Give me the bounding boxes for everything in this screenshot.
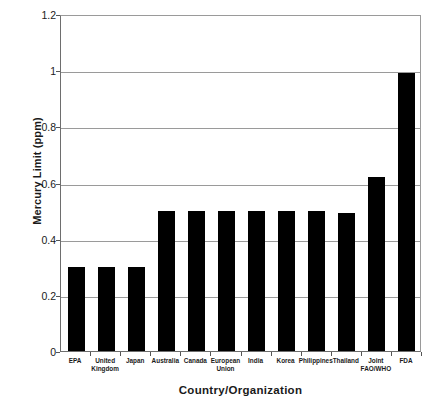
- y-tick-label: 0.8: [16, 122, 56, 132]
- x-tick-mark: [271, 352, 272, 356]
- x-tick-mark: [90, 352, 91, 356]
- plot-area: [60, 15, 421, 352]
- x-tick-mark: [331, 352, 332, 356]
- bar: [98, 267, 115, 351]
- y-tick-label: 1.2: [16, 10, 56, 20]
- bar: [338, 213, 355, 351]
- x-axis-title: Country/Organization: [60, 384, 421, 396]
- x-tick-mark: [361, 352, 362, 356]
- x-tick-mark: [150, 352, 151, 356]
- y-axis-ticks: 00.20.40.60.811.2: [12, 0, 56, 410]
- bars-layer: [61, 16, 420, 351]
- y-tick-label: 0.4: [16, 235, 56, 245]
- x-tick-mark: [120, 352, 121, 356]
- x-tick-mark: [180, 352, 181, 356]
- bar: [218, 211, 235, 351]
- x-tick-mark: [241, 352, 242, 356]
- bar-chart: Mercury Limit (ppm) 00.20.40.60.811.2 EP…: [0, 0, 434, 410]
- bar: [158, 211, 175, 351]
- bar: [278, 211, 295, 351]
- x-tick-mark: [421, 352, 422, 356]
- bar: [308, 211, 325, 351]
- x-axis-labels: EPAUnited KingdomJapanAustraliaCanadaEur…: [60, 357, 421, 381]
- y-tick-label: 1: [16, 66, 56, 76]
- x-tick-mark: [391, 352, 392, 356]
- bar: [128, 267, 145, 351]
- y-tick-label: 0.2: [16, 291, 56, 301]
- bar: [188, 211, 205, 351]
- y-tick-label: 0.6: [16, 179, 56, 189]
- y-tick-label: 0: [16, 347, 56, 357]
- bar: [368, 177, 385, 351]
- bar: [68, 267, 85, 351]
- x-tick-mark: [210, 352, 211, 356]
- x-tick-label: FDA: [387, 357, 425, 365]
- bar: [398, 73, 415, 351]
- bar: [248, 211, 265, 351]
- x-tick-mark: [301, 352, 302, 356]
